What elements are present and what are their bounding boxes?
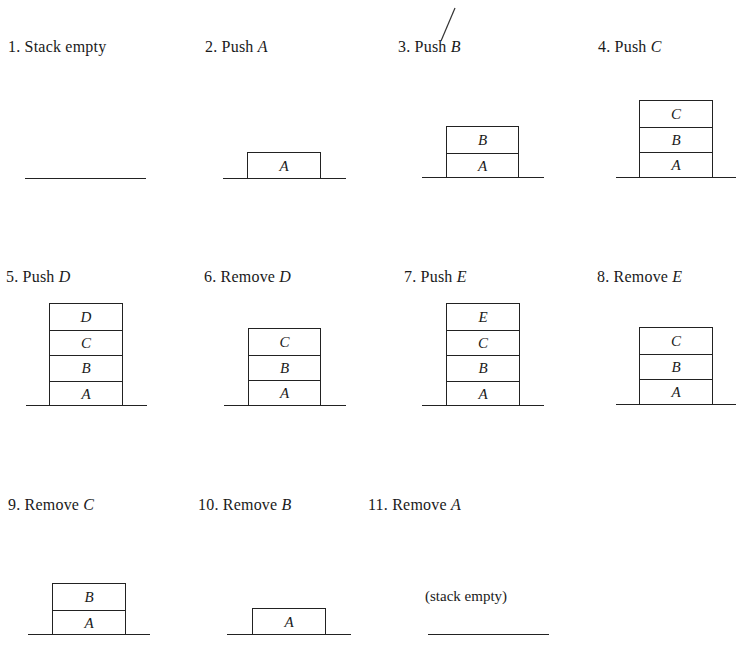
step-item: D [59, 268, 71, 285]
step-number: 1. [8, 38, 25, 55]
stack-cell-C: C [249, 329, 320, 355]
step-label-11: 11. Remove A [368, 496, 461, 514]
step-label-2: 2. Push A [205, 38, 268, 56]
stack-cell-C: C [640, 101, 712, 127]
stack-baseline [25, 178, 146, 179]
stack-cell-A: A [248, 153, 320, 179]
step-item: C [83, 496, 94, 513]
step-item: C [651, 38, 662, 55]
step-action: Remove [223, 496, 278, 513]
step-action: Push [23, 268, 55, 285]
stack-cell-A: A [253, 609, 325, 635]
stack-cell-B: B [50, 355, 122, 381]
step-action: Stack empty [25, 38, 107, 55]
step-item: E [672, 268, 682, 285]
step-item: B [282, 496, 292, 513]
stack-baseline [428, 634, 549, 635]
step-item: E [457, 268, 467, 285]
step-item: A [451, 496, 461, 513]
stack-cell-A: A [640, 152, 712, 178]
stack-cell-C: C [447, 330, 519, 356]
stack-cell-A: A [447, 153, 518, 179]
step-label-10: 10. Remove B [198, 496, 292, 514]
step-number: 6. [204, 268, 221, 285]
step-number: 8. [597, 268, 614, 285]
stack-cell-B: B [447, 355, 519, 381]
step-label-8: 8. Remove E [597, 268, 682, 286]
step-action: Remove [25, 496, 80, 513]
step-label-9: 9. Remove C [8, 496, 94, 514]
step-label-7: 7. Push E [404, 268, 467, 286]
step-number: 7. [404, 268, 421, 285]
stack-cell-C: C [640, 328, 712, 354]
stack-9: BA [52, 583, 126, 635]
step-number: 9. [8, 496, 25, 513]
step-action: Remove [392, 496, 447, 513]
step-action: Push [222, 38, 254, 55]
step-item: A [258, 38, 268, 55]
step-action: Push [415, 38, 447, 55]
stack-cell-B: B [640, 354, 712, 380]
step-item: D [279, 268, 291, 285]
step-action: Push [615, 38, 647, 55]
step-item: B [451, 38, 461, 55]
stack-4: CBA [639, 100, 713, 178]
stack-cell-D: D [50, 304, 122, 330]
step-action: Remove [614, 268, 669, 285]
step-action: Push [421, 268, 453, 285]
step-number: 11. [368, 496, 392, 513]
stack-10: A [252, 608, 326, 635]
step-label-5: 5. Push D [6, 268, 71, 286]
step-action: Remove [221, 268, 276, 285]
stack-cell-E: E [447, 304, 519, 330]
stack-cell-B: B [249, 355, 320, 381]
step-number: 10. [198, 496, 223, 513]
step-label-4: 4. Push C [598, 38, 662, 56]
step-number: 5. [6, 268, 23, 285]
stack-cell-B: B [447, 127, 518, 153]
stack-8: CBA [639, 327, 713, 405]
stack-3: BA [446, 126, 519, 178]
step-number: 4. [598, 38, 615, 55]
stack-cell-B: B [640, 127, 712, 153]
stack-7: ECBA [446, 303, 520, 406]
stack-cell-A: A [249, 380, 320, 406]
step-number: 2. [205, 38, 222, 55]
step-label-1: 1. Stack empty [8, 38, 106, 56]
stack-empty-note: (stack empty) [425, 588, 507, 605]
stack-cell-A: A [53, 610, 125, 636]
stack-cell-A: A [50, 381, 122, 407]
stack-5: DCBA [49, 303, 123, 406]
stack-cell-B: B [53, 584, 125, 610]
stack-2: A [247, 152, 321, 179]
stack-cell-A: A [640, 379, 712, 405]
step-label-6: 6. Remove D [204, 268, 291, 286]
stack-6: CBA [248, 328, 321, 406]
stack-cell-A: A [447, 381, 519, 407]
stack-cell-C: C [50, 330, 122, 356]
step-label-3: 3. Push B [398, 38, 461, 56]
step-number: 3. [398, 38, 415, 55]
